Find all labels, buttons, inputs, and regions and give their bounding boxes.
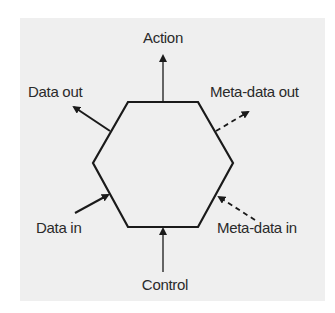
data-out-arrow: [74, 107, 110, 131]
label-control: Control: [142, 276, 188, 293]
hexagon-diagram: Action Data out Meta-data out Data in Me…: [0, 0, 335, 313]
hexagon-shape: [93, 102, 233, 227]
label-data-in: Data in: [36, 219, 81, 236]
data-in-arrow: [75, 195, 108, 213]
label-action: Action: [143, 29, 183, 46]
label-data-out: Data out: [28, 83, 83, 100]
label-meta-data-in: Meta-data in: [217, 219, 297, 236]
meta-data-out-arrow: [216, 112, 248, 131]
meta-data-in-arrow: [219, 197, 255, 220]
label-meta-data-out: Meta-data out: [210, 83, 300, 100]
